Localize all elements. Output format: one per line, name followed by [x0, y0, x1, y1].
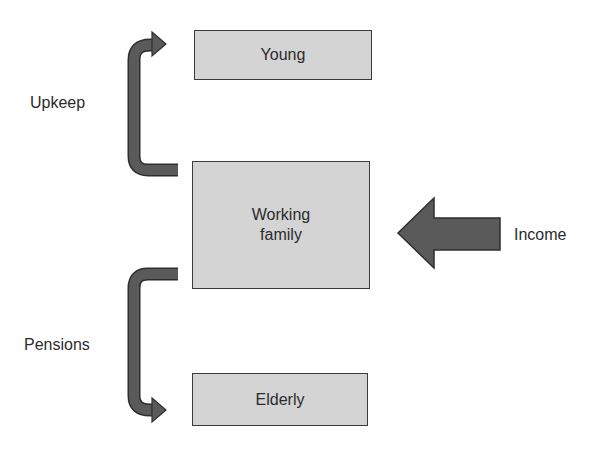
elderly-label: Elderly	[256, 390, 305, 410]
upkeep-label: Upkeep	[30, 94, 85, 112]
upkeep-arrow	[134, 32, 178, 170]
young-node: Young	[194, 30, 372, 80]
income-arrow	[398, 198, 500, 268]
pensions-arrow	[134, 274, 178, 422]
elderly-node: Elderly	[192, 373, 368, 426]
working-family-node: Working family	[192, 161, 370, 289]
income-label: Income	[514, 226, 566, 244]
pensions-label: Pensions	[24, 336, 90, 354]
working-family-label-line1: Working	[252, 205, 310, 225]
working-family-label-line2: family	[260, 225, 302, 245]
young-label: Young	[261, 45, 306, 65]
